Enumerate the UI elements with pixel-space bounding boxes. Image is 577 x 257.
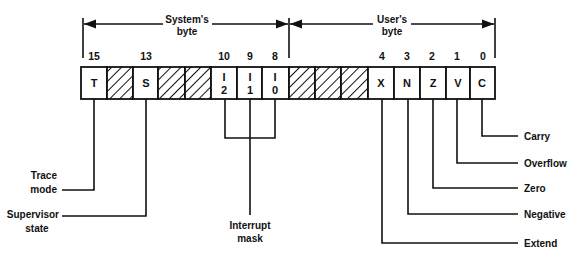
- interrupt-mask-label-2: mask: [237, 233, 263, 244]
- system-byte-label-2: byte: [177, 26, 198, 37]
- bit-number-4: 4: [379, 50, 385, 62]
- supervisor-state-label-1: Supervisor: [7, 209, 59, 220]
- overflow-label: Overflow: [524, 158, 567, 169]
- negative-label: Negative: [524, 209, 566, 220]
- bit-number-9: 9: [247, 50, 253, 62]
- user-byte-dimension: User's byte: [290, 14, 495, 58]
- cell-bit-12-reserved: [158, 67, 185, 99]
- cell-bit-14-reserved: [107, 67, 133, 99]
- bit-numbers: 15 13 10 9 8 4 3 2 1 0: [88, 50, 486, 62]
- arrowhead-right-icon: [276, 20, 288, 29]
- cell-label-V: V: [454, 77, 462, 89]
- cell-label-I0-bottom: 0: [272, 84, 278, 96]
- trace-mode-leader: [62, 99, 94, 190]
- cell-label-I1-top: I: [248, 71, 251, 83]
- condition-code-callouts: Carry Overflow Zero Negative Extend: [382, 99, 567, 249]
- bit-number-10: 10: [218, 50, 230, 62]
- status-register-diagram: System's byte User's byte 15 13 10 9 8 4…: [0, 0, 577, 257]
- carry-label: Carry: [524, 131, 551, 142]
- register-cells: T S I 2 I 1 I 0 X N Z V C: [81, 67, 495, 99]
- bit-number-13: 13: [140, 50, 152, 62]
- cell-bit-7-reserved: [289, 67, 315, 99]
- cell-bit-6-reserved: [315, 67, 341, 99]
- carry-leader: [482, 99, 518, 136]
- overflow-leader: [457, 99, 518, 163]
- system-byte-label-1: System's: [165, 14, 209, 25]
- trace-mode-callout: Trace mode: [30, 99, 94, 195]
- cell-label-N: N: [403, 77, 411, 89]
- bit-number-3: 3: [404, 50, 410, 62]
- cell-label-X: X: [377, 77, 385, 89]
- cell-label-I2-top: I: [222, 71, 225, 83]
- arrowhead-left-icon: [84, 20, 96, 29]
- cell-label-I0-top: I: [273, 71, 276, 83]
- cell-bit-11-reserved: [185, 67, 211, 99]
- bit-number-8: 8: [272, 50, 278, 62]
- user-byte-label-1: User's: [377, 14, 408, 25]
- cell-label-I1-bottom: 1: [247, 84, 253, 96]
- supervisor-state-leader: [62, 99, 146, 216]
- bit-number-15: 15: [88, 50, 100, 62]
- bit-number-0: 0: [480, 50, 486, 62]
- supervisor-state-label-2: state: [25, 223, 49, 234]
- extend-leader: [382, 99, 518, 243]
- bit-number-2: 2: [429, 50, 435, 62]
- zero-label: Zero: [524, 183, 546, 194]
- system-byte-dimension: System's byte: [83, 14, 289, 58]
- arrowhead-right-icon: [482, 20, 494, 29]
- cell-label-Z: Z: [430, 77, 437, 89]
- zero-leader: [433, 99, 518, 188]
- cell-label-I2-bottom: 2: [221, 84, 227, 96]
- interrupt-mask-callout: Interrupt mask: [225, 99, 275, 244]
- interrupt-mask-label-1: Interrupt: [229, 220, 271, 231]
- negative-leader: [408, 99, 518, 214]
- arrowhead-left-icon: [290, 20, 302, 29]
- user-byte-label-2: byte: [382, 26, 403, 37]
- supervisor-state-callout: Supervisor state: [7, 99, 146, 234]
- trace-mode-label-1: Trace: [31, 170, 58, 181]
- cell-label-C: C: [478, 77, 486, 89]
- cell-label-S: S: [142, 77, 149, 89]
- trace-mode-label-2: mode: [30, 184, 57, 195]
- cell-label-T: T: [91, 77, 98, 89]
- extend-label: Extend: [524, 238, 557, 249]
- cell-bit-5-reserved: [341, 67, 368, 99]
- bit-number-1: 1: [454, 50, 460, 62]
